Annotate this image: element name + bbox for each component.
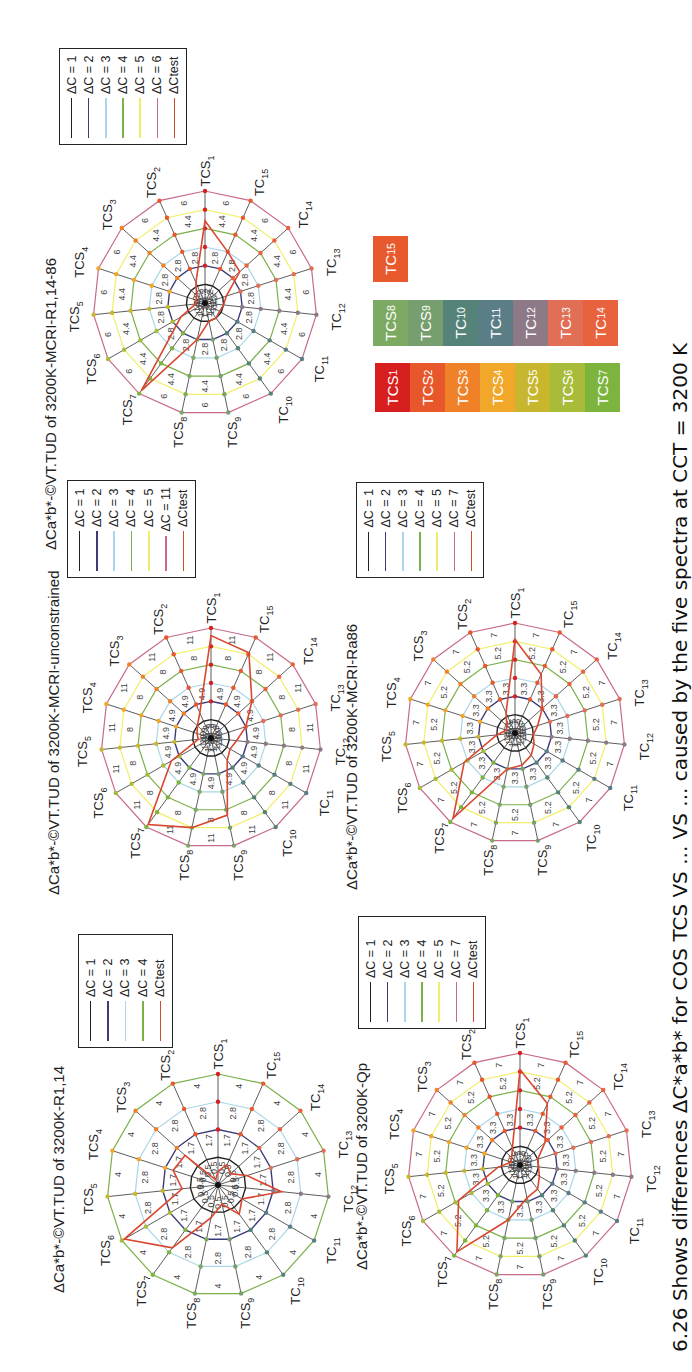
svg-text:3.3: 3.3 (542, 1122, 552, 1135)
chart-title-3: ΔCa*b*-©VT.TUD of 3200K-MCRI-Ra86 (343, 624, 360, 890)
svg-text:3.3: 3.3 (488, 1122, 498, 1135)
svg-text:4.4: 4.4 (249, 229, 259, 242)
axis-label-tc15: TC15 (252, 169, 270, 196)
axis-label-tc10: TC10 (288, 1277, 306, 1304)
svg-text:2.8: 2.8 (200, 343, 210, 356)
axis-label-tc14: TC14 (308, 1084, 326, 1111)
svg-text:4.9: 4.9 (188, 773, 198, 786)
swatch-tc14: TC14 (583, 300, 618, 346)
svg-text:4: 4 (272, 1101, 282, 1106)
legend-item: ΔC = 2 (380, 489, 392, 571)
svg-text:11: 11 (247, 825, 257, 834)
legend-item: ΔCtest (177, 487, 189, 571)
svg-text:2.8: 2.8 (283, 1201, 293, 1214)
axis-label-tc13: TC13 (336, 1131, 354, 1158)
svg-text:3.3: 3.3 (467, 741, 477, 754)
svg-text:4.4: 4.4 (128, 255, 138, 268)
svg-text:4: 4 (234, 1084, 244, 1089)
legend-item: ΔC = 3 (399, 923, 411, 1022)
svg-text:3.3: 3.3 (555, 1136, 565, 1149)
svg-text:4.4: 4.4 (151, 229, 161, 242)
svg-text:3.3: 3.3 (475, 1136, 485, 1149)
svg-text:3.3: 3.3 (519, 683, 529, 696)
svg-text:1.7: 1.7 (186, 1142, 196, 1155)
chart-title-1: ΔCa*b*-©VT.TUD of 3200K-MCRI-R1,14-86 (42, 258, 59, 550)
swatch-tc12: TC12 (513, 300, 548, 346)
legend-line-icon (79, 531, 81, 571)
svg-text:2.8: 2.8 (240, 274, 250, 287)
svg-text:4: 4 (138, 1250, 148, 1255)
legend-item: ΔC = 5 (134, 55, 146, 138)
svg-text:8: 8 (267, 790, 277, 795)
svg-text:7: 7 (418, 1194, 428, 1199)
svg-text:2.8: 2.8 (234, 328, 244, 341)
svg-text:11: 11 (280, 800, 290, 809)
svg-text:11: 11 (132, 800, 142, 809)
axis-label-tcs1: TCS1 (204, 592, 222, 623)
axis-label-tcs3: TCS3 (107, 636, 125, 667)
svg-text:5.2: 5.2 (591, 718, 601, 731)
legend-line-icon (385, 532, 387, 571)
legend-item: ΔC = 4 (137, 941, 149, 1041)
axis-label-tcs5: TCS5 (81, 1183, 99, 1214)
svg-text:4.4: 4.4 (121, 322, 131, 335)
swatch-tcs9: TCS9 (408, 300, 443, 346)
svg-text:7: 7 (474, 1256, 484, 1261)
swatch-tcs8: TCS8 (373, 300, 408, 346)
axis-label-tc14: TC14 (611, 1063, 629, 1090)
chart-title-5: ΔCa*b*-©VT.TUD of 3200K-Qp (353, 1063, 370, 1270)
legend-line-icon (404, 982, 406, 1022)
legend-line-icon (370, 982, 372, 1022)
svg-text:11: 11 (293, 683, 303, 692)
chart-legend-1: ΔC = 1ΔC = 2ΔC = 3ΔC = 4ΔC = 5ΔC = 6ΔCte… (59, 48, 187, 145)
axis-label-tcs9: TCS9 (225, 417, 243, 448)
svg-text:4.9: 4.9 (180, 695, 190, 708)
svg-text:7: 7 (451, 650, 461, 655)
figure-caption: 6.26 Shows differences ΔC*a*b* for COS T… (668, 0, 692, 1372)
axis-label-tcs8: TCS8 (171, 417, 189, 448)
svg-text:2.8: 2.8 (286, 1171, 296, 1184)
svg-text:5.2: 5.2 (510, 808, 520, 821)
svg-text:6: 6 (276, 369, 286, 374)
legend-line-icon (421, 982, 423, 1022)
svg-text:3.3: 3.3 (553, 741, 563, 754)
svg-text:6: 6 (140, 218, 150, 223)
chart-legend-4: ΔC = 1ΔC = 2ΔC = 3ΔC = 4ΔCtest (78, 934, 173, 1048)
svg-text:8: 8 (254, 669, 264, 674)
svg-text:7: 7 (591, 1231, 601, 1236)
svg-text:1.7: 1.7 (179, 1209, 189, 1222)
svg-text:7: 7 (597, 680, 607, 685)
legend-line-icon (419, 532, 421, 571)
chart-legend-2: ΔC = 1ΔC = 2ΔC = 3ΔC = 4ΔC = 5ΔC = 11ΔCt… (67, 480, 196, 578)
svg-text:4.4: 4.4 (234, 373, 244, 386)
axis-label-tc15: TC15 (264, 1052, 282, 1079)
svg-text:4.4: 4.4 (183, 215, 193, 228)
axis-label-tc11: TC11 (317, 790, 335, 817)
legend-item: ΔC = 1 (363, 489, 375, 571)
svg-text:7: 7 (510, 830, 520, 835)
svg-text:2.8: 2.8 (228, 1107, 238, 1120)
svg-text:4.4: 4.4 (117, 288, 127, 301)
svg-text:1.7: 1.7 (204, 1134, 214, 1147)
svg-text:3.3: 3.3 (549, 704, 559, 717)
svg-text:2.8: 2.8 (143, 1201, 153, 1214)
svg-text:2.8: 2.8 (243, 1246, 253, 1259)
axis-label-tc13: TC13 (639, 1111, 657, 1138)
chart-legend-3: ΔC = 1ΔC = 2ΔC = 3ΔC = 4ΔC = 5ΔC = 7ΔCte… (356, 482, 484, 578)
svg-text:1.7: 1.7 (252, 1156, 262, 1169)
axis-label-tcs7: TCS7 (435, 1256, 453, 1287)
swatch-row-tcs8-tc14: TCS8TCS9TC10TC11TC12TC13TC14 (373, 300, 618, 346)
axis-label-tc10: TC10 (280, 829, 298, 856)
svg-text:3.3: 3.3 (484, 690, 494, 703)
axis-label-tc11: TC11 (621, 785, 639, 812)
svg-text:4: 4 (213, 1283, 223, 1288)
svg-text:5.2: 5.2 (581, 686, 591, 699)
legend-item: ΔC = 3 (397, 489, 409, 571)
legend-line-icon (113, 531, 115, 571)
svg-text:4.9: 4.9 (163, 746, 173, 759)
axis-label-tcs7: TCS7 (120, 394, 138, 425)
svg-text:5.2: 5.2 (594, 1184, 604, 1197)
radar-chart-4: 0.51.72.840.51.72.840.51.72.840.51.72.84… (81, 1038, 360, 1328)
svg-text:4: 4 (309, 1214, 319, 1219)
svg-text:7: 7 (489, 633, 499, 638)
